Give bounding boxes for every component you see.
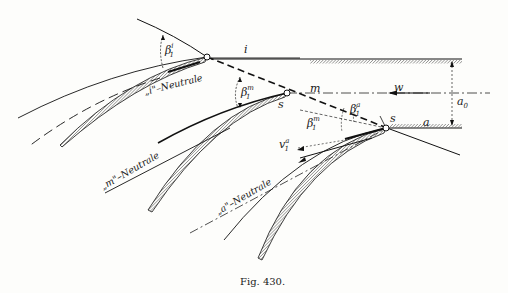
pivot-m [284, 90, 290, 96]
label-beta-m-2: βm1 [306, 115, 320, 132]
label-neutral-m: „m"–Neutrale [99, 149, 162, 192]
label-w: w [394, 81, 404, 94]
blade-i [18, 57, 207, 147]
label-s-a: s [390, 112, 396, 125]
label-v1a: va1 [279, 137, 289, 153]
blade-m [105, 93, 287, 212]
cascade-diagram: i m w a a0 s s βi1 βm1 βm1 βa1 va1 „i"–N… [0, 0, 508, 293]
label-beta-m: βm1 [240, 84, 254, 101]
label-i: i [244, 43, 248, 56]
label-neutral-i: „i"–Neutrale [143, 72, 204, 97]
figure-caption: Fig. 430. [240, 276, 285, 287]
inlet-edge-line [137, 19, 460, 155]
label-a: a [423, 116, 430, 129]
pivot-a [383, 125, 389, 131]
wall-top-hatch [310, 60, 462, 64]
label-beta-i: βi1 [164, 42, 174, 59]
a0-dimension [450, 61, 454, 126]
label-beta-a: βa1 [349, 101, 361, 118]
label-s-m: s [278, 98, 284, 111]
label-a0: a0 [457, 95, 469, 110]
label-m: m [310, 82, 320, 95]
pivot-i [204, 54, 210, 60]
